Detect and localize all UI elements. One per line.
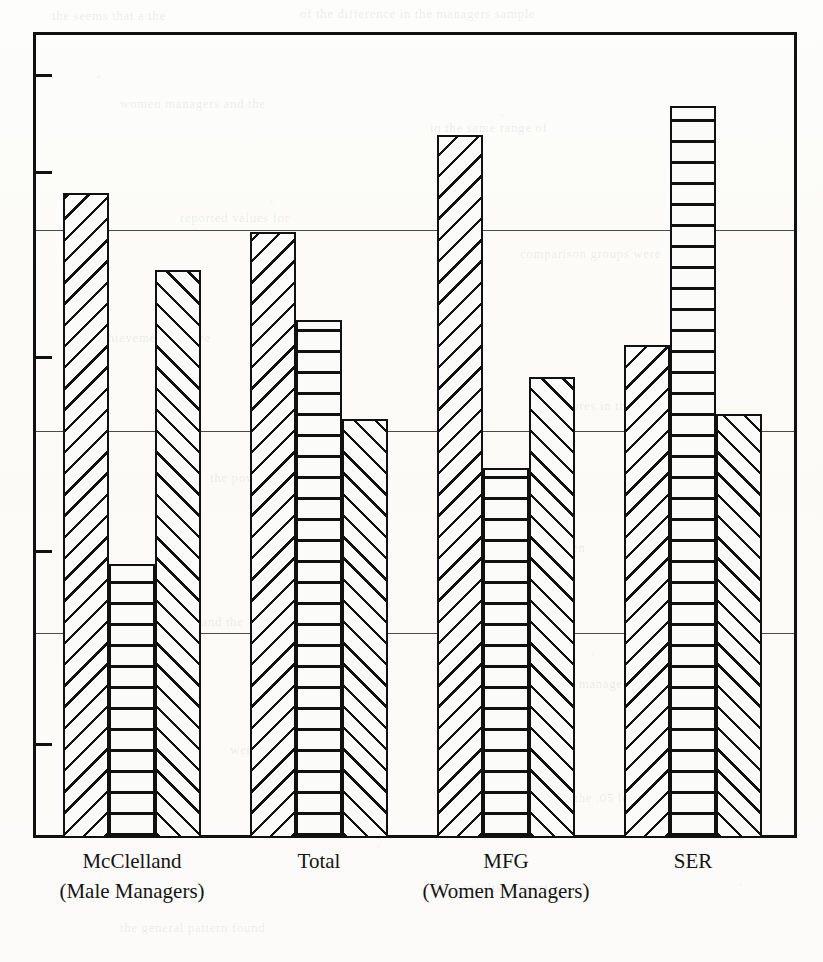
category-labels: McClelland(Male Managers)TotalMFGSER(Wom… <box>0 846 823 956</box>
women-managers-note: (Women Managers) <box>356 876 656 906</box>
category-label-text: Total <box>298 849 341 873</box>
category-label-ser: SER <box>563 846 823 876</box>
bar-group <box>624 32 762 838</box>
bar <box>716 414 762 838</box>
bar <box>342 419 388 838</box>
bar <box>670 106 716 838</box>
bar <box>296 320 342 838</box>
bar <box>529 377 575 838</box>
category-label-text: McClelland <box>82 849 181 873</box>
bar <box>483 468 529 838</box>
bar <box>109 564 155 838</box>
category-label-text: MFG <box>483 849 529 873</box>
bar <box>155 270 201 838</box>
bars-layer <box>33 32 797 838</box>
bar <box>437 135 483 838</box>
bar <box>250 232 296 838</box>
bar-group <box>437 32 575 838</box>
category-label-text: SER <box>674 849 713 873</box>
bar <box>63 193 109 838</box>
category-sublabel-text: (Male Managers) <box>2 876 262 906</box>
bar-chart-figure: McClelland(Male Managers)TotalMFGSER(Wom… <box>0 0 823 962</box>
bar <box>624 345 670 838</box>
bar-group <box>250 32 388 838</box>
bar-group <box>63 32 201 838</box>
